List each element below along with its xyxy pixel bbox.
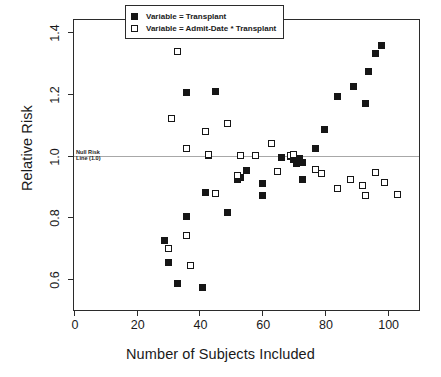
- legend: Variable = TransplantVariable = Admit-Da…: [125, 5, 284, 39]
- x-tick: 60: [262, 310, 263, 316]
- data-point: [183, 89, 190, 96]
- data-point: [202, 189, 209, 196]
- data-point: [359, 182, 366, 189]
- data-point: [268, 140, 275, 147]
- legend-label: Variable = Transplant: [146, 12, 226, 21]
- x-tick-label: 0: [72, 318, 79, 332]
- data-point: [321, 126, 328, 133]
- data-point: [362, 192, 369, 199]
- legend-label: Variable = Admit-Date * Transplant: [146, 24, 276, 33]
- data-point: [334, 93, 341, 100]
- data-point: [299, 159, 306, 166]
- y-axis-label: Relative Risk: [19, 38, 35, 258]
- y-tick-label: 1.0: [47, 148, 61, 165]
- data-point: [347, 176, 354, 183]
- legend-item: Variable = Admit-Date * Transplant: [131, 22, 276, 34]
- x-axis-label: Number of Subjects Included: [0, 346, 441, 362]
- data-point: [199, 284, 206, 291]
- x-tick: 20: [137, 310, 138, 316]
- null-risk-reference-line: [74, 156, 419, 157]
- data-point: [187, 262, 194, 269]
- x-tick-label: 60: [256, 318, 270, 332]
- data-point: [234, 172, 241, 179]
- data-point: [299, 176, 306, 183]
- filled-square-icon: [131, 13, 138, 20]
- x-tick: 0: [74, 310, 75, 316]
- y-tick-label: 1.4: [47, 25, 61, 42]
- y-tick: 0.8: [68, 217, 74, 218]
- data-point: [381, 179, 388, 186]
- x-tick-label: 100: [378, 318, 399, 332]
- data-point: [205, 151, 212, 158]
- data-point: [161, 237, 168, 244]
- null-risk-annotation-line2: Line (1.0): [76, 155, 101, 161]
- data-point: [168, 115, 175, 122]
- data-point: [290, 151, 297, 158]
- data-point: [212, 190, 219, 197]
- y-tick: 1.4: [68, 32, 74, 33]
- data-point: [237, 152, 244, 159]
- data-point: [372, 50, 379, 57]
- data-point: [183, 213, 190, 220]
- data-point: [278, 154, 285, 161]
- data-point: [183, 232, 190, 239]
- x-tick-label: 20: [131, 318, 145, 332]
- data-point: [174, 280, 181, 287]
- data-point: [394, 191, 401, 198]
- data-point: [362, 100, 369, 107]
- null-risk-annotation-line1: Null Risk: [76, 149, 100, 155]
- y-tick: 0.6: [68, 279, 74, 280]
- data-point: [259, 180, 266, 187]
- data-point: [350, 83, 357, 90]
- y-tick-label: 1.2: [47, 86, 61, 103]
- data-point: [224, 120, 231, 127]
- y-tick-label: 0.6: [47, 271, 61, 288]
- scatter-plot-figure: Relative Risk Number of Subjects Include…: [0, 0, 441, 377]
- data-point: [259, 192, 266, 199]
- data-point: [334, 185, 341, 192]
- data-point: [165, 245, 172, 252]
- y-tick: 1.2: [68, 94, 74, 95]
- data-point: [252, 152, 259, 159]
- legend-item: Variable = Transplant: [131, 10, 276, 22]
- x-tick: 40: [199, 310, 200, 316]
- null-risk-annotation: Null Risk Line (1.0): [76, 149, 101, 162]
- data-point: [274, 168, 281, 175]
- x-tick: 100: [388, 310, 389, 316]
- data-point: [312, 145, 319, 152]
- y-tick-label: 0.8: [47, 210, 61, 227]
- x-tick-label: 80: [319, 318, 333, 332]
- data-point: [318, 170, 325, 177]
- x-tick-label: 40: [194, 318, 208, 332]
- data-point: [224, 209, 231, 216]
- data-point: [202, 128, 209, 135]
- data-point: [372, 169, 379, 176]
- data-point: [174, 48, 181, 55]
- data-point: [365, 68, 372, 75]
- data-point: [212, 88, 219, 95]
- data-point: [243, 167, 250, 174]
- data-point: [183, 145, 190, 152]
- plot-area: 0.60.81.01.21.4 020406080100 Null Risk L…: [73, 19, 420, 311]
- data-point: [378, 42, 385, 49]
- open-square-icon: [131, 25, 138, 32]
- data-point: [165, 259, 172, 266]
- x-tick: 80: [325, 310, 326, 316]
